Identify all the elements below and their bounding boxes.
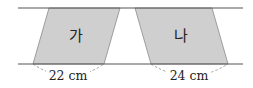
- shape-ga-label-text: 가: [69, 27, 83, 45]
- shape-ga-base-measure: 22 cm: [49, 68, 88, 83]
- parallelogram-ga: 가22 cm: [33, 8, 120, 83]
- parallelogram-diagram: 가22 cm나24 cm: [0, 0, 253, 88]
- parallelogram-na: 나24 cm: [135, 8, 228, 83]
- shape-na-label-text: 나: [174, 27, 188, 45]
- shape-na-base-measure: 24 cm: [170, 68, 209, 83]
